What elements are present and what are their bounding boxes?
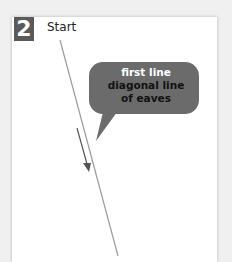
callout-line-3: of eaves bbox=[94, 92, 198, 105]
callout-line-1: first line bbox=[94, 66, 198, 79]
callout-line-2: diagonal line bbox=[94, 79, 198, 92]
direction-arrow-icon bbox=[77, 128, 91, 172]
callout-text: first line diagonal line of eaves bbox=[94, 66, 198, 105]
